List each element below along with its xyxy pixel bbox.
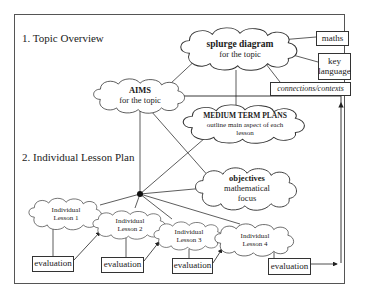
lesson-2-node: Individual Lesson 2 xyxy=(116,217,145,233)
evaluation-label: evaluation xyxy=(104,260,142,270)
objectives-line2: focus xyxy=(224,194,270,204)
lesson-2-line2: Lesson 2 xyxy=(116,225,145,233)
evaluation-box-2: evaluation xyxy=(101,257,144,273)
evaluation-label: evaluation xyxy=(271,262,309,272)
section-lesson-plan-heading: 2. Individual Lesson Plan xyxy=(22,151,134,163)
lesson-1-line2: Lesson 1 xyxy=(52,214,81,222)
mtp-title: MEDIUM TERM PLANS xyxy=(203,112,287,121)
connections-label: connections/contexts xyxy=(277,85,344,94)
lesson-1-line1: Individual xyxy=(52,206,81,214)
key-language-box: key language xyxy=(318,53,351,80)
key-language-line2: language xyxy=(318,67,350,77)
junction-dot xyxy=(137,191,143,197)
medium-term-plans-node: MEDIUM TERM PLANS outline main aspect of… xyxy=(203,112,287,137)
lesson-3-node: Individual Lesson 3 xyxy=(175,228,204,244)
lesson-1-node: Individual Lesson 1 xyxy=(52,206,81,222)
evaluation-label: evaluation xyxy=(174,261,212,271)
mtp-line1: outline main aspect of each xyxy=(203,120,287,128)
splurge-subtitle: for the topic xyxy=(207,50,274,60)
lesson-2-line1: Individual xyxy=(116,217,145,225)
lesson-3-line2: Lesson 3 xyxy=(175,236,204,244)
aims-subtitle: for the topic xyxy=(119,96,161,106)
connections-contexts-box: connections/contexts xyxy=(270,82,351,96)
maths-label: maths xyxy=(322,34,344,44)
maths-box: maths xyxy=(316,31,349,46)
evaluation-box-4: evaluation xyxy=(268,258,311,275)
section-topic-overview-heading: 1. Topic Overview xyxy=(22,32,104,44)
evaluation-label: evaluation xyxy=(34,259,72,269)
lesson-4-line1: Individual xyxy=(241,232,270,240)
mtp-line2: lesson xyxy=(203,128,287,136)
lesson-3-line1: Individual xyxy=(175,228,204,236)
lesson-4-line2: Lesson 4 xyxy=(241,240,270,248)
evaluation-box-1: evaluation xyxy=(32,256,74,272)
lesson-4-node: Individual Lesson 4 xyxy=(241,232,270,248)
aims-node: AIMS for the topic xyxy=(119,86,161,106)
objectives-node: objectives mathematical focus xyxy=(224,174,270,203)
splurge-diagram-node: splurge diagram for the topic xyxy=(207,39,274,60)
evaluation-box-3: evaluation xyxy=(172,258,213,274)
